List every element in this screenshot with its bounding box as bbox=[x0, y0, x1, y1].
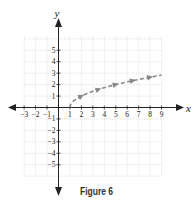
y-tick-label: −5 bbox=[48, 160, 56, 169]
x-tick-label: 3 bbox=[91, 110, 95, 119]
x-tick-label: 5 bbox=[114, 110, 118, 119]
x-tick-label: 8 bbox=[148, 110, 152, 119]
y-tick-label: 1 bbox=[52, 92, 56, 101]
y-tick-label: −3 bbox=[48, 137, 56, 146]
x-tick-label: −2 bbox=[32, 110, 40, 119]
x-tick-label: −3 bbox=[20, 110, 28, 119]
x-tick-label: 2 bbox=[80, 110, 84, 119]
x-axis-right-arrow-icon bbox=[176, 104, 184, 111]
x-tick-label: 4 bbox=[102, 110, 106, 119]
direction-arrow-icon bbox=[95, 86, 102, 93]
y-axis-up-arrow-icon bbox=[55, 18, 62, 27]
x-tick-label: 7 bbox=[137, 110, 141, 119]
y-axis-label: y bbox=[54, 7, 60, 19]
x-axis-left-arrow-icon bbox=[8, 104, 16, 111]
y-tick-label: 4 bbox=[52, 57, 56, 66]
y-tick-label: −4 bbox=[48, 149, 56, 158]
chart-canvas: xy −3−2−1123456789−5−4−3−2−112345 bbox=[0, 0, 193, 215]
y-tick-label: 3 bbox=[52, 69, 56, 78]
y-tick-label: −2 bbox=[48, 126, 56, 135]
x-tick-label: 6 bbox=[125, 110, 129, 119]
x-axis-label: x bbox=[185, 102, 191, 114]
x-tick-label: 9 bbox=[160, 110, 164, 119]
figure-caption: Figure 6 bbox=[14, 186, 178, 197]
x-tick-label: 1 bbox=[68, 110, 72, 119]
y-tick-label: 2 bbox=[52, 80, 56, 89]
y-tick-label: −1 bbox=[48, 114, 56, 123]
y-tick-label: 5 bbox=[52, 46, 56, 55]
